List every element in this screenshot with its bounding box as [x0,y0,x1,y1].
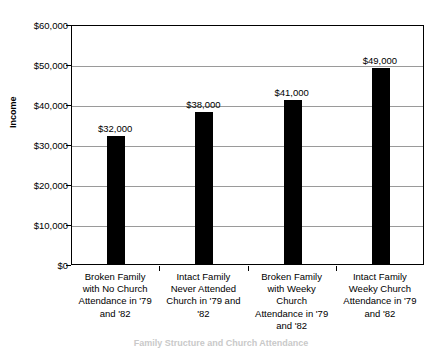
y-tick-label: $40,000 [6,100,68,111]
y-tick-mark [66,185,71,186]
x-category-label-line: and '82 [337,308,423,320]
bar [107,136,125,264]
y-tick-label: $0 [6,260,68,271]
y-tick-mark [66,145,71,146]
bar [284,100,302,264]
gridline [72,106,423,107]
y-tick-mark [66,225,71,226]
x-category-label: Broken Familywith No ChurchAttendance in… [71,271,159,332]
x-axis-title: Family Structure and Church Attendance [0,338,442,348]
bar-chart: Income $0$10,000$20,000$30,000$40,000$50… [0,0,442,348]
x-category-label-line: Never Attended [160,283,246,295]
bar-value-label: $32,000 [80,123,150,134]
x-category-label-line: with Weeky [249,283,335,295]
y-tick-label: $50,000 [6,60,68,71]
x-category-label-line: Church [249,295,335,307]
y-axis-title: Income [8,114,18,128]
x-category-label-line: Weeky Church [337,283,423,295]
y-tick-label: $30,000 [6,140,68,151]
bar-value-label: $49,000 [345,55,415,66]
y-tick-label: $10,000 [6,220,68,231]
x-axis-category-labels: Broken Familywith No ChurchAttendance in… [71,271,424,332]
bar [372,68,390,264]
x-category-label-line: Intact Family [160,271,246,283]
x-category-label: Intact FamilyNever AttendedChurch in '79… [159,271,247,332]
x-category-label-line: Church in '79 and [160,295,246,307]
x-category-label-line: Intact Family [337,271,423,283]
y-tick-mark [66,25,71,26]
x-category-label-line: Attendance in '79 [337,295,423,307]
bar [195,112,213,264]
y-tick-mark [66,105,71,106]
gridline [72,66,423,67]
x-category-label: Broken Familywith WeekyChurchAttendance … [248,271,336,332]
x-category-label-line: Attendance in '79 [249,308,335,320]
bar-value-label: $38,000 [168,99,238,110]
x-category-label-line: Attendance in '79 [72,295,158,307]
x-category-label: Intact FamilyWeeky ChurchAttendance in '… [336,271,424,332]
x-category-label-line: '82 [160,308,246,320]
y-tick-mark [66,265,71,266]
bar-value-label: $41,000 [257,87,327,98]
y-tick-mark [66,65,71,66]
y-tick-label: $60,000 [6,20,68,31]
y-tick-label: $20,000 [6,180,68,191]
x-category-label-line: and '82 [249,320,335,332]
x-category-label-line: Broken Family [249,271,335,283]
x-category-label-line: Broken Family [72,271,158,283]
x-category-label-line: and '82 [72,308,158,320]
x-category-label-line: with No Church [72,283,158,295]
